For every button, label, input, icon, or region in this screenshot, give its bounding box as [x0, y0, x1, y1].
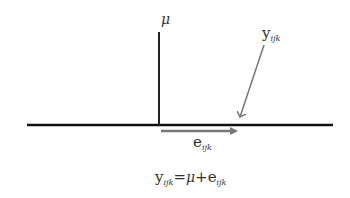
observation-arrow [240, 45, 264, 117]
model-equation: yijk=μ+eijk [155, 168, 226, 187]
e-subscript: ijk [202, 143, 212, 152]
eq-mu: μ [186, 169, 195, 185]
eq-plus: + [195, 168, 208, 186]
mu-label: μ [161, 11, 170, 27]
e-ijk-label: eijk [193, 133, 212, 152]
eq-e-sub: ijk [217, 178, 227, 187]
eq-e: e [208, 168, 217, 186]
y-ijk-label: yijk [262, 24, 280, 43]
eq-y-sub: ijk [163, 178, 173, 187]
y-subscript: ijk [270, 34, 280, 43]
eq-equals: = [173, 168, 186, 186]
e-base: e [193, 133, 202, 151]
